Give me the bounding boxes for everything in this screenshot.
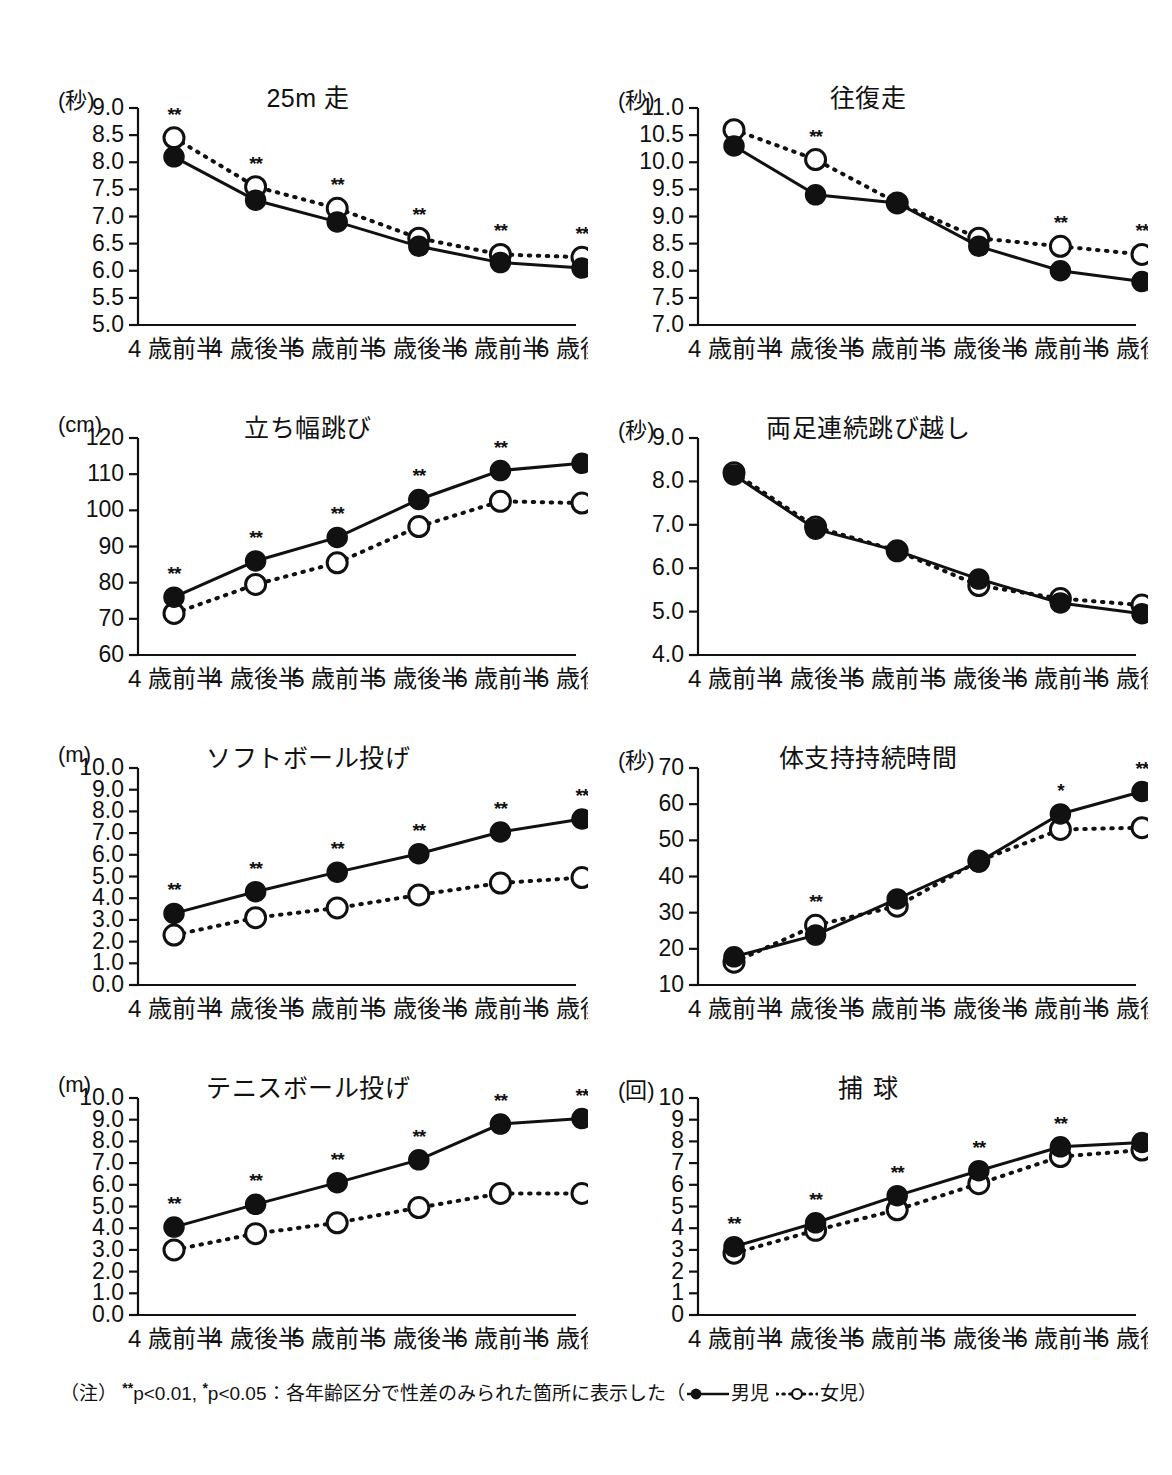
x-tick-label: 5 歳後半: [933, 995, 1025, 1022]
x-tick-label: 4 歳後半: [210, 1325, 302, 1352]
significance-marker: *: [1057, 780, 1065, 801]
x-tick-label: 5 歳前半: [851, 995, 943, 1022]
y-tick-label: 5.0: [652, 598, 684, 624]
x-tick-label: 6 歳前半: [1014, 1325, 1106, 1352]
x-tick-label: 5 歳前半: [291, 1325, 383, 1352]
data-point-boys: [327, 527, 347, 547]
significance-marker: **: [494, 1090, 508, 1111]
y-tick-label: 9.0: [652, 203, 684, 229]
y-tick-label: 90: [98, 533, 124, 559]
data-point-boys: [246, 1194, 266, 1214]
significance-marker: **: [331, 1149, 345, 1170]
data-point-boys: [1132, 272, 1148, 292]
y-tick-label: 50: [658, 826, 684, 852]
chart-two-foot-continuous-jump: (秒)両足連続跳び越し4.05.06.07.08.09.04 歳前半4 歳後半5…: [588, 390, 1148, 720]
y-tick-label: 6.0: [652, 554, 684, 580]
x-tick-label: 6 歳前半: [454, 335, 546, 362]
data-point-boys: [969, 1161, 989, 1181]
x-tick-label: 5 歳前半: [291, 335, 383, 362]
significance-marker: **: [809, 1189, 823, 1210]
x-tick-label: 6 歳後半: [536, 665, 588, 692]
data-point-boys: [969, 236, 989, 256]
data-point-boys: [572, 809, 588, 829]
data-point-girls: [327, 898, 347, 918]
data-point-boys: [1050, 261, 1070, 281]
data-point-boys: [164, 587, 184, 607]
significance-marker: **: [412, 204, 426, 225]
data-point-boys: [246, 551, 266, 571]
chart-body-support-duration: (秒)体支持持続時間102030405060704 歳前半4 歳後半5 歳前半5…: [588, 720, 1148, 1050]
significance-marker: **: [494, 220, 508, 241]
data-point-boys: [164, 147, 184, 167]
x-tick-label: 6 歳後半: [1096, 1325, 1148, 1352]
data-point-girls: [1050, 236, 1070, 256]
y-tick-label: 120: [86, 424, 124, 450]
data-point-girls: [246, 1224, 266, 1244]
plot-area: 607080901001101204 歳前半4 歳後半5 歳前半5 歳後半6 歳…: [28, 390, 588, 720]
chart-25m-run: (秒)25m 走5.05.56.06.57.07.58.08.59.04 歳前半…: [28, 60, 588, 390]
x-tick-label: 4 歳後半: [210, 665, 302, 692]
y-tick-label: 4.0: [652, 641, 684, 667]
y-tick-label: 8.5: [92, 121, 124, 147]
y-tick-label: 11.0: [641, 94, 684, 120]
y-tick-label: 10: [658, 971, 684, 997]
y-tick-label: 80: [98, 569, 124, 595]
data-point-boys: [572, 258, 588, 278]
data-point-girls: [1132, 818, 1148, 838]
significance-marker: **: [168, 104, 182, 125]
significance-marker: **: [809, 126, 823, 147]
y-tick-label: 10.0: [639, 148, 684, 174]
data-point-boys: [490, 253, 510, 273]
significance-marker: **: [1054, 212, 1068, 233]
y-tick-label: 7.0: [652, 311, 684, 337]
data-point-boys: [806, 1213, 826, 1233]
x-tick-label: 4 歳後半: [210, 995, 302, 1022]
x-tick-label: 6 歳後半: [536, 335, 588, 362]
data-point-girls: [490, 491, 510, 511]
x-tick-label: 5 歳前半: [851, 335, 943, 362]
significance-marker: **: [576, 785, 588, 806]
data-point-boys: [806, 185, 826, 205]
data-point-girls: [572, 493, 588, 513]
data-point-boys: [409, 489, 429, 509]
y-tick-label: 60: [658, 790, 684, 816]
x-tick-label: 4 歳前半: [128, 665, 220, 692]
footnote-sig-high: p<0.01,: [133, 1383, 197, 1404]
data-point-girls: [164, 128, 184, 148]
significance-marker: **: [576, 223, 588, 244]
significance-marker: **: [809, 891, 823, 912]
data-point-boys: [887, 541, 907, 561]
y-tick-label: 110: [87, 460, 124, 486]
data-point-girls: [490, 1183, 510, 1203]
y-tick-label: 60: [98, 641, 124, 667]
data-point-girls: [490, 873, 510, 893]
significance-marker: **: [331, 838, 345, 859]
footnote-prefix: （注）: [60, 1383, 117, 1404]
data-point-boys: [409, 1150, 429, 1170]
plot-area: 0.01.02.03.04.05.06.07.08.09.010.04 歳前半4…: [28, 1050, 588, 1380]
significance-marker: **: [331, 503, 345, 524]
x-tick-label: 4 歳前半: [128, 335, 220, 362]
data-point-girls: [327, 553, 347, 573]
x-tick-label: 6 歳後半: [1096, 335, 1148, 362]
plot-area: 7.07.58.08.59.09.510.010.511.04 歳前半4 歳後半…: [588, 60, 1148, 390]
physical-fitness-figure: (秒)25m 走5.05.56.06.57.07.58.08.59.04 歳前半…: [0, 0, 1172, 1475]
x-tick-label: 4 歳後半: [770, 665, 862, 692]
y-tick-label: 10: [658, 1084, 684, 1110]
y-tick-label: 10.5: [639, 121, 684, 147]
legend-girls-label: 女児: [820, 1383, 858, 1404]
data-point-boys: [246, 882, 266, 902]
significance-marker: **: [249, 1170, 263, 1191]
data-point-boys: [724, 947, 744, 967]
data-point-boys: [327, 1173, 347, 1193]
data-point-boys: [1132, 1132, 1148, 1152]
x-tick-label: 5 歳前半: [851, 665, 943, 692]
significance-marker: **: [168, 879, 182, 900]
x-tick-label: 5 歳後半: [933, 665, 1025, 692]
y-tick-label: 7.5: [652, 284, 684, 310]
data-point-boys: [164, 903, 184, 923]
y-tick-label: 8.0: [652, 467, 684, 493]
data-point-boys: [409, 844, 429, 864]
y-tick-label: 20: [658, 935, 684, 961]
x-tick-label: 6 歳後半: [536, 1325, 588, 1352]
